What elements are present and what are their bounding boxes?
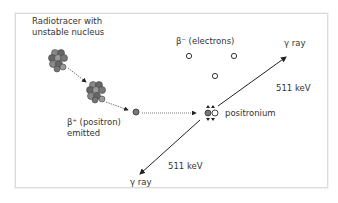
positron-label: β⁺ (positron) emitted — [67, 117, 121, 139]
positron-label-line2: emitted — [67, 128, 121, 139]
nucleus-icon — [87, 82, 106, 104]
nucleus-icon — [49, 50, 68, 73]
positron-icon — [133, 109, 139, 115]
emission-arrow — [106, 102, 128, 110]
positron-label-line1: β⁺ (positron) — [67, 117, 121, 128]
electrons-label: β⁻ (electrons) — [176, 36, 234, 47]
gamma-ray-top-label: γ ray — [284, 38, 305, 49]
radiotracer-label-line2: unstable nucleus — [32, 27, 104, 38]
decay-arrow — [68, 68, 86, 82]
energy-bottom-label: 511 keV — [168, 161, 203, 172]
radiotracer-label: Radiotracer with unstable nucleus — [32, 16, 104, 38]
gamma-ray-bottom-label: γ ray — [130, 177, 151, 188]
positronium-icon — [205, 105, 218, 121]
energy-top-label: 511 keV — [276, 83, 311, 94]
positronium-label: positronium — [225, 108, 276, 119]
gamma-ray-arrow-top — [218, 57, 286, 106]
electron-icons — [186, 53, 236, 78]
radiotracer-label-line1: Radiotracer with — [32, 16, 104, 27]
